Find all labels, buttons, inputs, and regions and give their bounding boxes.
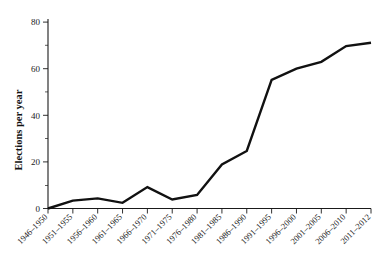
y-tick-label-80: 80	[31, 17, 41, 27]
y-tick-label-0: 0	[36, 204, 41, 214]
y-axis-label: Elections per year	[13, 89, 24, 170]
y-tick-label-20: 20	[31, 157, 41, 167]
line-chart: Elections per year 0 20 40 60 80	[0, 0, 381, 271]
y-tick-label-60: 60	[31, 64, 41, 74]
chart-container: Elections per year 0 20 40 60 80	[0, 0, 381, 271]
y-tick-label-40: 40	[31, 111, 41, 121]
y-axis-label-group: Elections per year	[13, 89, 24, 170]
